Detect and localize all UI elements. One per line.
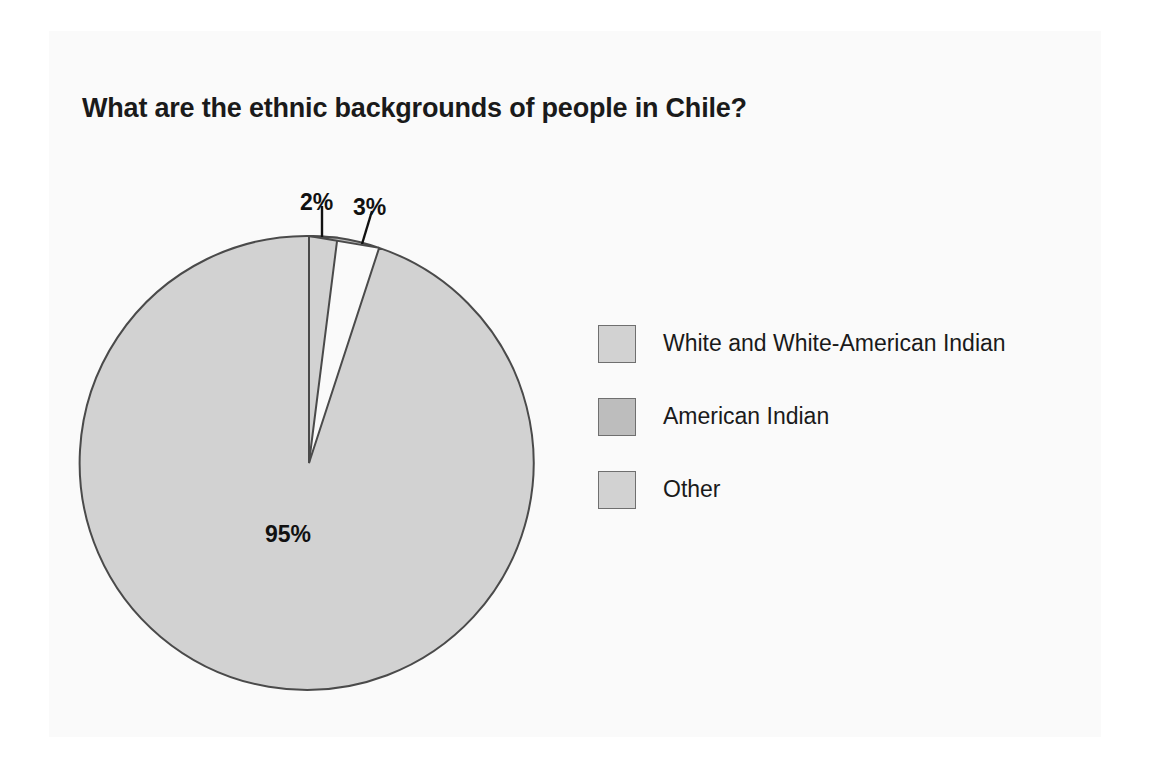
slice-value-label-other: 2%: [300, 189, 333, 216]
pie-slice-white-and-white-american-indian[interactable]: [80, 236, 534, 690]
pie-chart-plot-area: 2% 3% 95% White and White-American India…: [0, 0, 1149, 765]
legend-item-other[interactable]: Other: [598, 464, 1058, 515]
legend-label-white-and-white-american-indian: White and White-American Indian: [663, 330, 1006, 357]
slice-value-label-white-and-white-american-indian: 95%: [265, 521, 311, 548]
chart-page: What are the ethnic backgrounds of peopl…: [0, 0, 1149, 765]
chart-legend: White and White-American Indian American…: [598, 318, 1058, 515]
legend-label-american-indian: American Indian: [663, 403, 829, 430]
legend-item-white-and-white-american-indian[interactable]: White and White-American Indian: [598, 318, 1058, 369]
legend-swatch-american-indian: [598, 398, 636, 436]
pie-chart-graphic: [60, 170, 580, 710]
legend-label-other: Other: [663, 476, 721, 503]
legend-item-american-indian[interactable]: American Indian: [598, 391, 1058, 442]
slice-value-label-american-indian: 3%: [353, 194, 386, 221]
legend-swatch-white-and-white-american-indian: [598, 325, 636, 363]
legend-swatch-other: [598, 471, 636, 509]
